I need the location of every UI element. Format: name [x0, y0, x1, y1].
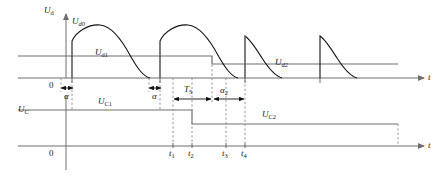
label-ud1: Ud1 [95, 48, 108, 57]
time-marker-t4: t4 [241, 149, 247, 158]
timing-diagram-figure: Ud Ud0 Ud1 Ud2 0 t α α TS α2 UC1 UC UC2 … [0, 0, 444, 183]
zero-label-top: 0 [49, 81, 54, 90]
axis-label-t-bottom: t [428, 141, 431, 150]
label-alpha-1: α [64, 92, 69, 101]
uc-control-voltage-line [18, 110, 398, 124]
label-alpha-2: α2 [220, 86, 228, 95]
label-ts: TS [184, 85, 193, 94]
construction-lines-group [61, 36, 398, 146]
label-alpha-1b: α [152, 92, 157, 101]
time-marker-t2: t2 [188, 149, 194, 158]
axis-label-t-top: t [428, 73, 431, 82]
time-marker-t3: t3 [222, 149, 228, 158]
ud-pulse-4 [320, 36, 357, 78]
label-ud2: Ud2 [275, 58, 288, 67]
ud-pulse-1 [72, 25, 150, 78]
zero-label-bottom: 0 [49, 149, 54, 158]
ud0-mean-level-line [18, 56, 398, 64]
axis-label-uc: UC [18, 105, 29, 114]
bottom-panel-group [18, 95, 424, 170]
time-marker-t1: t1 [169, 149, 175, 158]
label-ud0: Ud0 [72, 17, 85, 26]
label-uc2: UC2 [262, 110, 276, 119]
ud-pulse-2 [160, 25, 238, 78]
label-uc1: UC1 [98, 97, 112, 106]
axis-label-ud: Ud [44, 6, 54, 15]
